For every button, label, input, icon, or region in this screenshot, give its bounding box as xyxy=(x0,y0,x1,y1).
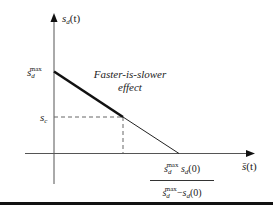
x-intercept-fraction: sdmax sd(0) sdmax−sd(0) xyxy=(150,158,214,203)
annotation-line2: effect xyxy=(80,81,180,94)
den-s-sup: max xyxy=(165,185,177,193)
fraction-bar xyxy=(150,180,214,181)
faster-is-slower-annotation: Faster-is-slower effect xyxy=(80,68,180,94)
den-s2-arg: (0) xyxy=(190,187,202,198)
x-label-arg: (t) xyxy=(246,160,256,172)
y-label-arg: (t) xyxy=(70,12,80,24)
num-s-sup: max xyxy=(166,161,178,169)
num-s2-arg: (0) xyxy=(188,163,200,174)
den-s-sub: d xyxy=(166,192,170,200)
fraction-numerator: sdmax sd(0) xyxy=(150,158,214,179)
bottom-rule xyxy=(0,202,273,205)
ytick-max-sup: max xyxy=(30,65,42,73)
y-tick-c-label: sc xyxy=(40,112,47,125)
ytick-max-sub: d xyxy=(31,72,35,80)
y-axis-arrow-icon xyxy=(51,13,58,22)
fraction-denominator: sdmax−sd(0) xyxy=(150,182,214,203)
annotation-line1: Faster-is-slower xyxy=(80,68,180,81)
ytick-c-sub: c xyxy=(44,117,47,125)
x-axis-arrow-icon xyxy=(246,150,255,157)
x-axis-label: s̄(t) xyxy=(242,161,257,172)
num-s-sub: d xyxy=(168,168,172,176)
y-axis-label: sd(t) xyxy=(62,13,80,26)
y-tick-max-label: sdmax xyxy=(27,66,42,80)
decline-line xyxy=(123,117,179,154)
diagram-canvas xyxy=(0,0,273,208)
